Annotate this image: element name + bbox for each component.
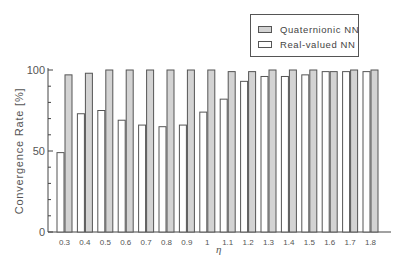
bar-quaternionic xyxy=(187,70,194,232)
bar-quaternionic xyxy=(208,70,215,232)
legend-swatch-real-valued xyxy=(258,41,272,48)
bar-quaternionic xyxy=(65,75,72,232)
bar-real-valued xyxy=(343,72,350,232)
x-tick-label: 0.8 xyxy=(161,238,173,247)
bar-quaternionic xyxy=(126,70,133,232)
x-axis-label: η xyxy=(216,243,221,255)
x-tick-label: 0.7 xyxy=(141,238,153,247)
bar-quaternionic xyxy=(289,70,296,232)
bar-quaternionic xyxy=(330,72,337,232)
x-tick-label: 1.3 xyxy=(263,238,275,247)
bar-quaternionic xyxy=(310,70,317,232)
x-tick-label: 1.8 xyxy=(365,238,377,247)
bar-real-valued xyxy=(302,75,309,232)
bar-quaternionic xyxy=(269,70,276,232)
bar-real-valued xyxy=(200,112,207,232)
bar-quaternionic xyxy=(147,70,154,232)
x-tick-label: 0.3 xyxy=(59,238,71,247)
bar-quaternionic xyxy=(228,72,235,232)
bar-quaternionic xyxy=(371,70,378,232)
y-tick-label: 0 xyxy=(39,226,45,238)
x-tick-label: 0.4 xyxy=(79,238,91,247)
x-tick-label: 0.6 xyxy=(120,238,132,247)
bar-quaternionic xyxy=(249,72,256,232)
bar-real-valued xyxy=(179,125,186,232)
bar-real-valued xyxy=(98,111,105,233)
x-tick-label: 1.2 xyxy=(243,238,255,247)
bar-real-valued xyxy=(281,76,288,232)
y-axis-label: Convergence Rate [%] xyxy=(13,88,25,215)
bar-real-valued xyxy=(363,72,370,232)
bar-real-valued xyxy=(220,99,227,232)
x-tick-label: 1.4 xyxy=(283,238,295,247)
legend: Quaternionic NN Real-valued NN xyxy=(250,14,359,57)
bar-real-valued xyxy=(322,72,329,232)
bar-real-valued xyxy=(139,125,146,232)
bar-real-valued xyxy=(57,153,64,232)
x-tick-label: 1.1 xyxy=(222,238,234,247)
bar-quaternionic xyxy=(85,73,92,232)
x-tick-label: 1 xyxy=(205,238,210,247)
bar-quaternionic xyxy=(106,70,113,232)
legend-label-real-valued: Real-valued NN xyxy=(280,39,355,50)
x-tick-label: 0.9 xyxy=(181,238,193,247)
x-tick-label: 0.5 xyxy=(100,238,112,247)
bar-real-valued xyxy=(241,81,248,232)
bar-real-valued xyxy=(261,76,268,232)
legend-label-quaternionic: Quaternionic NN xyxy=(280,24,359,35)
legend-swatch-quaternionic xyxy=(258,26,272,33)
legend-item-real-valued: Real-valued NN xyxy=(258,37,355,51)
x-tick-label: 1.7 xyxy=(345,238,357,247)
bar-quaternionic xyxy=(351,70,358,232)
bar-real-valued xyxy=(159,127,166,232)
chart: 0501000.30.40.50.60.70.80.911.11.21.31.4… xyxy=(0,0,400,262)
bar-quaternionic xyxy=(167,70,174,232)
y-tick-label: 100 xyxy=(27,64,45,76)
x-tick-label: 1.5 xyxy=(304,238,316,247)
bar-real-valued xyxy=(118,120,125,232)
y-tick-label: 50 xyxy=(33,145,45,157)
legend-item-quaternionic: Quaternionic NN xyxy=(258,22,359,36)
x-tick-label: 1.6 xyxy=(324,238,336,247)
bar-real-valued xyxy=(77,114,84,232)
